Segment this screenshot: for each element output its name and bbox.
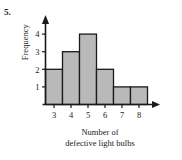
x-axis-caption-line-2: defective light bulbs bbox=[34, 138, 166, 149]
histogram-bar bbox=[131, 87, 148, 105]
x-axis-arrowhead bbox=[152, 101, 160, 108]
y-axis-arrowhead bbox=[42, 15, 49, 24]
x-tick-label: 7 bbox=[120, 110, 124, 120]
y-tick-label: 1 bbox=[35, 82, 39, 92]
x-tick-label: 5 bbox=[86, 110, 90, 120]
histogram-bar bbox=[80, 34, 97, 104]
x-axis-caption: Number of defective light bulbs bbox=[34, 127, 166, 149]
histogram-bar bbox=[97, 69, 114, 104]
x-tick-label: 4 bbox=[69, 110, 74, 120]
histogram-figure: 5. Frequency 345678 1234 Number of defec… bbox=[0, 0, 182, 160]
x-axis-ticks: 345678 bbox=[52, 105, 141, 120]
y-tick-label: 3 bbox=[35, 47, 39, 57]
bars-group bbox=[46, 34, 148, 104]
histogram-bar bbox=[46, 69, 63, 104]
x-tick-label: 6 bbox=[103, 110, 107, 120]
y-axis-ticks: 1234 bbox=[35, 29, 45, 92]
x-tick-label: 3 bbox=[52, 110, 56, 120]
y-tick-label: 4 bbox=[35, 29, 40, 39]
x-axis-caption-line-1: Number of bbox=[34, 127, 166, 138]
histogram-bar bbox=[114, 87, 131, 105]
x-tick-label: 8 bbox=[137, 110, 141, 120]
histogram-bar bbox=[63, 52, 80, 105]
y-tick-label: 2 bbox=[35, 65, 39, 75]
